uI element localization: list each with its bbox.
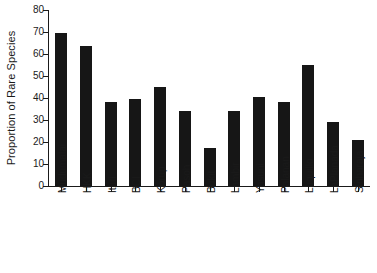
x-axis-tick-label-text: Mudumalai [57, 144, 68, 193]
x-axis-tick-label-text: LaPlanada [329, 145, 340, 193]
y-axis-tick-label: 0 [20, 181, 44, 191]
y-axis-tick-label: 10 [20, 159, 44, 169]
x-axis-tick-label-text: Korup [156, 166, 167, 193]
plot-area [49, 10, 370, 186]
y-axis-tick-labels: 01020304050607080 [20, 10, 44, 186]
y-axis-tick-mark [43, 120, 48, 121]
bar [80, 46, 92, 186]
y-axis-tick-mark [43, 98, 48, 99]
y-axis-tick-label: 40 [20, 93, 44, 103]
x-axis-tick-label: Bukit [206, 193, 228, 207]
x-axis-tick-label: Ituri [107, 193, 124, 207]
x-axis-tick-labels: MudumalaiHKKIturiBCIKorupPasohBukitLambi… [49, 193, 370, 273]
y-axis-tick-mark [43, 186, 48, 187]
y-axis-tick-mark [43, 164, 48, 165]
x-axis-tick-label-text: Pasoh [181, 165, 192, 193]
x-axis-tick-label-text: BCI [131, 176, 142, 193]
y-axis-tick-label: 30 [20, 115, 44, 125]
x-axis-tick-label-text: HKK [82, 172, 93, 193]
y-axis-tick-label: 50 [20, 71, 44, 81]
y-axis-tick-mark [43, 76, 48, 77]
y-axis-tick-mark [43, 10, 48, 11]
bar-chart: Proportion of Rare Species 0102030405060… [0, 0, 377, 273]
x-axis-tick-label: Korup [156, 193, 183, 207]
x-axis-tick-label-text: Lambir [230, 162, 241, 193]
x-axis-tick-label: BCI [131, 193, 148, 207]
y-axis-tick-label: 70 [20, 27, 44, 37]
y-axis-tick-mark [43, 142, 48, 143]
x-axis-tick-label: Sinharaja [354, 193, 377, 207]
y-axis-tick-mark [43, 54, 48, 55]
y-axis-label: Proportion of Rare Species [0, 0, 22, 196]
x-axis-tick-label-text: Bukit [206, 171, 217, 193]
x-axis-tick-label-text: Yasuni [255, 163, 266, 193]
y-axis-tick-label: 20 [20, 137, 44, 147]
x-axis-tick-label-text: Ituri [107, 176, 118, 193]
x-axis-tick-label-text: Palanan [280, 156, 291, 193]
x-axis-tick-label-text: Luquillo [304, 159, 315, 193]
y-axis-label-text: Proportion of Rare Species [5, 31, 17, 166]
y-axis-tick-label: 60 [20, 49, 44, 59]
y-axis-tick-label: 80 [20, 5, 44, 15]
bar [105, 102, 117, 186]
x-axis-tick-label-text: Sinharaja [354, 151, 365, 193]
x-axis-tick-label: HKK [82, 193, 103, 207]
bar [129, 99, 141, 186]
y-axis-tick-mark [43, 32, 48, 33]
